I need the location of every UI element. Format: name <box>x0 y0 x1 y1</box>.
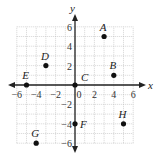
point-g <box>34 141 39 146</box>
y-tick-label: 4 <box>67 41 72 52</box>
x-axis-left-arrow-icon <box>8 82 15 88</box>
x-tick-label: 0 <box>77 89 82 100</box>
y-axis-down-arrow-icon <box>72 146 78 153</box>
point-b <box>111 73 116 78</box>
x-tick-label: 2 <box>92 89 97 100</box>
x-tick-label: −2 <box>50 89 61 100</box>
x-tick-label: −6 <box>11 89 22 100</box>
data-points: ABCDEFGH <box>21 21 127 146</box>
point-label-f: F <box>79 118 87 130</box>
x-tick-label: 4 <box>111 89 116 100</box>
x-tick-label: 6 <box>131 89 136 100</box>
point-f <box>72 121 77 126</box>
x-axis-right-arrow-icon <box>139 82 146 88</box>
point-a <box>102 34 107 39</box>
point-h <box>121 121 126 126</box>
y-tick-label: −4 <box>61 119 72 130</box>
y-axis-label: y <box>69 2 75 14</box>
y-tick-label: −2 <box>61 99 72 110</box>
point-label-b: B <box>109 59 116 71</box>
x-tick-label: −4 <box>31 89 42 100</box>
point-label-c: C <box>81 71 89 83</box>
point-label-g: G <box>31 127 39 139</box>
y-tick-label: −6 <box>61 138 72 149</box>
point-label-e: E <box>21 69 29 81</box>
y-axis-up-arrow-icon <box>72 14 78 21</box>
coordinate-plane: xy −6−4−20246−6−4−2246 ABCDEFGH <box>0 0 161 153</box>
point-c <box>72 82 77 87</box>
point-label-h: H <box>118 108 128 120</box>
point-label-a: A <box>99 21 107 33</box>
y-tick-label: 2 <box>67 61 72 72</box>
point-d <box>43 63 48 68</box>
point-label-d: D <box>40 50 49 62</box>
x-axis-label: x <box>147 79 153 91</box>
point-e <box>24 82 29 87</box>
y-tick-label: 6 <box>67 22 72 33</box>
